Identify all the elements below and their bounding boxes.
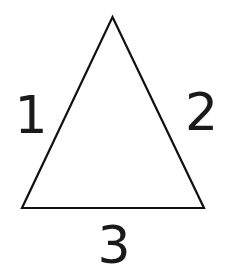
geometry-figure: 1 2 3 xyxy=(0,0,225,278)
side-label-bottom: 3 xyxy=(88,219,140,271)
side-label-left: 1 xyxy=(0,89,62,141)
side-label-right: 2 xyxy=(178,86,225,138)
